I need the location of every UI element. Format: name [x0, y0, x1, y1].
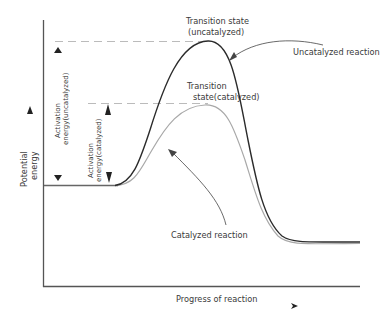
- catalyzed-reaction-label: Catalyzed reaction: [171, 230, 248, 240]
- x-axis-label: Progress of reaction: [176, 294, 257, 304]
- y-axis-label-line1: Potential: [19, 151, 29, 187]
- y-axis-direction-arrow-icon: [27, 106, 33, 114]
- ts-catalyzed-label-line1: Transition: [186, 81, 227, 91]
- catalyzed-pointer-line: [172, 152, 226, 225]
- energy-diagram: Potential energy Activation energy(uncat…: [0, 0, 390, 326]
- activation-catalyzed-bottom-arrow-icon: [106, 172, 112, 183]
- activation-uncatalyzed-label-line2: energy(uncatalyzed): [62, 72, 70, 145]
- uncatalyzed-pointer-arrowhead-icon: [229, 52, 237, 61]
- uncatalyzed-curve: [115, 41, 360, 242]
- x-axis-direction-arrow-icon: [291, 303, 298, 309]
- ts-catalyzed-label-line2: state(catalyzed): [193, 92, 260, 102]
- y-axis-label-line2: energy: [29, 151, 39, 180]
- activation-uncatalyzed-bottom-arrow-icon: [54, 175, 62, 181]
- activation-catalyzed-label-line1: Activation: [87, 143, 95, 178]
- ts-uncatalyzed-label-line2: (uncatalyzed): [188, 27, 244, 37]
- activation-uncatalyzed-label-line1: Activation: [54, 103, 62, 138]
- uncatalyzed-reaction-label: Uncatalyzed reaction: [293, 47, 380, 57]
- activation-catalyzed-top-arrow-icon: [105, 104, 111, 115]
- activation-uncatalyzed-top-arrow-icon: [54, 47, 62, 53]
- activation-catalyzed-label-line2: energy(catalyzed): [95, 118, 103, 182]
- ts-uncatalyzed-label-line1: Transition state: [185, 16, 249, 26]
